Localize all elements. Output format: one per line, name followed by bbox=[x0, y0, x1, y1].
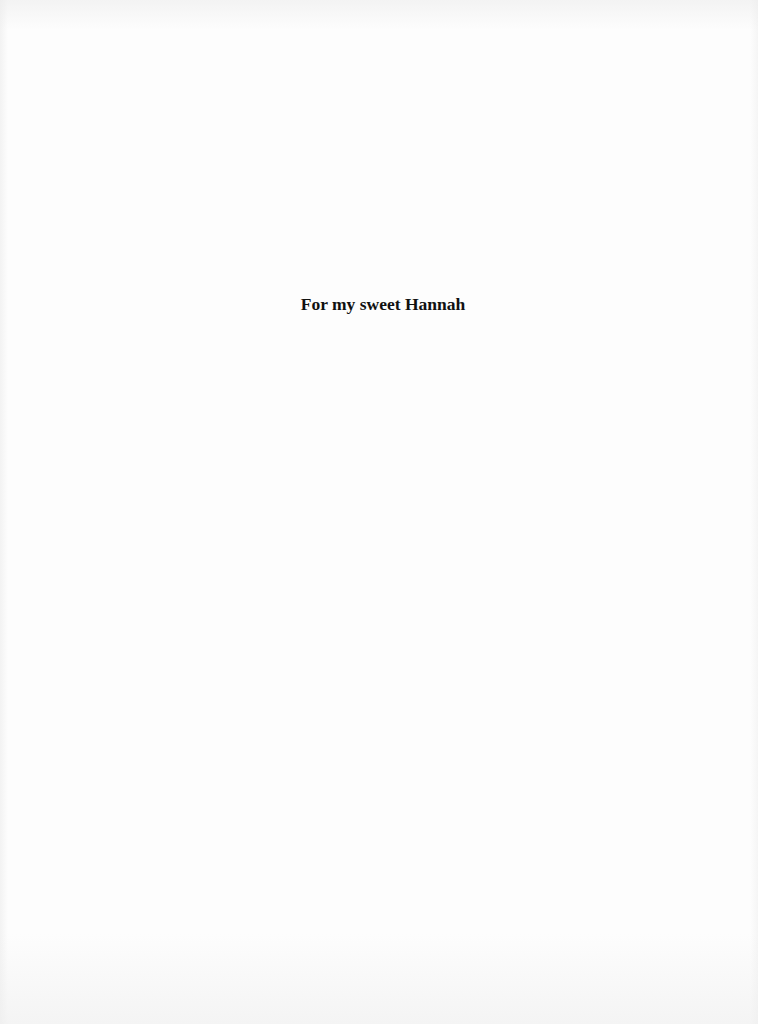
dedication-text: For my sweet Hannah bbox=[0, 293, 758, 315]
book-page: For my sweet Hannah bbox=[0, 0, 758, 1024]
